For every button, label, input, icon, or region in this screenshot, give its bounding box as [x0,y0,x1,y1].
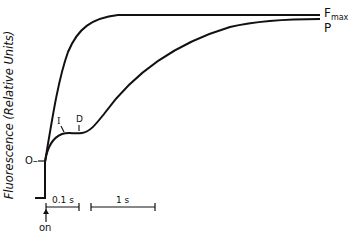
p-label: P [324,22,331,34]
fmax-curve [45,15,320,162]
o-label: O– [25,156,38,166]
light-on-arrow-icon [43,209,49,222]
y-axis-label: Fluorescence (Relative Units) [2,40,16,190]
d-label: D [76,115,83,124]
p-curve [45,19,320,162]
scale-slow-label: 1 s [116,196,129,205]
i-label: I [57,117,61,126]
scale-fast-label: 0.1 s [52,196,74,205]
light-on-label: on [39,223,51,233]
baseline-dark [35,162,45,198]
i-pointer [61,126,64,132]
fmax-label: Fmax [324,7,348,22]
